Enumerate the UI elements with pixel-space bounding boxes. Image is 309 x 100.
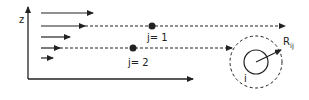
radius-label: Rij [283, 36, 294, 50]
diagram-svg: z j= 1 j= 2 i Rij [0, 0, 309, 100]
radius-label-sub: ij [290, 42, 294, 50]
radius-label-main: R [283, 36, 290, 47]
axes: z [19, 7, 193, 79]
flow-profile-arrows [41, 13, 93, 58]
interaction-zone: i Rij [230, 36, 294, 88]
diagram-canvas: z j= 1 j= 2 i Rij [0, 0, 309, 100]
z-axis-label: z [19, 14, 24, 25]
radius-arrow [256, 50, 281, 62]
particle-trajectories: j= 1 j= 2 [60, 23, 285, 69]
particle-j2-dot [130, 45, 137, 52]
particle-j1-dot [149, 23, 156, 30]
particle-j1-label: j= 1 [146, 32, 168, 43]
particle-j2-label: j= 2 [127, 57, 149, 68]
particle-i-label: i [244, 73, 247, 84]
